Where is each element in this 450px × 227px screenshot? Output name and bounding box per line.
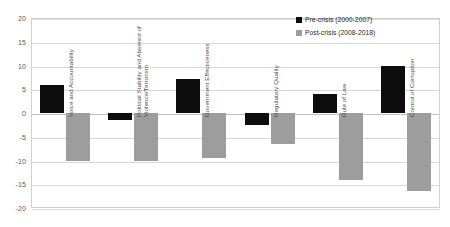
bar-post-crisis [202, 113, 226, 158]
y-axis-tick-label: 20 [18, 15, 26, 22]
y-axis-tick-label: 0 [22, 110, 26, 117]
bar-group: Control of Corruption [372, 18, 440, 208]
bar-pre-crisis [40, 85, 64, 114]
y-axis: 20151050-5-10-15-20 [0, 18, 29, 208]
bar-pre-crisis [381, 66, 405, 113]
y-axis-tick-label: -5 [20, 133, 26, 140]
x-axis-category-label-line: Government Effectiveness [203, 43, 210, 117]
legend-label: Post-crisis (2008-2018) [305, 29, 375, 36]
bar-pre-crisis [108, 113, 132, 120]
bar-pre-crisis [176, 79, 200, 113]
y-axis-tick-label: 5 [22, 86, 26, 93]
chart-legend: Pre-crisis (2000-2007)Post-crisis (2008-… [296, 14, 436, 40]
y-axis-tick-label: -15 [16, 181, 26, 188]
x-axis-category-label: Political Stability and Absence ofViolen… [136, 26, 149, 117]
bar-group: Political Stability and Absence ofViolen… [99, 18, 167, 208]
legend-item[interactable]: Post-crisis (2008-2018) [296, 27, 436, 38]
x-axis-category-label-line: Regulatory Quality [272, 65, 279, 117]
bar-group: Rule of Law [304, 18, 372, 208]
y-axis-tick-label: -10 [16, 157, 26, 164]
legend-item[interactable]: Pre-crisis (2000-2007) [296, 14, 436, 25]
y-axis-tick-label: 15 [18, 38, 26, 45]
bars-layer: Voice and AccountabilityPolitical Stabil… [31, 18, 440, 208]
bar-chart: 20151050-5-10-15-20 Voice and Accountabi… [0, 0, 450, 227]
x-axis-category-label-line: Rule of Law [340, 84, 347, 117]
gridline [32, 209, 439, 210]
bar-post-crisis [134, 113, 158, 161]
x-axis-category-label: Regulatory Quality [272, 65, 279, 117]
bar-post-crisis [66, 113, 90, 161]
bar-group: Regulatory Quality [236, 18, 304, 208]
y-axis-tick-label: 10 [18, 62, 26, 69]
bar-group: Government Effectiveness [167, 18, 235, 208]
legend-swatch-icon [296, 17, 302, 23]
legend-swatch-icon [296, 30, 302, 36]
bar-post-crisis [407, 113, 431, 191]
bar-group: Voice and Accountability [31, 18, 99, 208]
bar-pre-crisis [245, 113, 269, 125]
y-axis-tick-label: -20 [16, 205, 26, 212]
x-axis-category-label: Rule of Law [340, 84, 347, 117]
x-axis-category-label: Control of Corruption [408, 59, 415, 117]
bar-post-crisis [271, 113, 295, 144]
x-axis-category-label-line: Violence/Terrorism [143, 26, 150, 117]
x-axis-category-label-line: Voice and Accountability [67, 49, 74, 117]
x-axis-category-label: Voice and Accountability [67, 49, 74, 117]
bar-post-crisis [339, 113, 363, 180]
legend-label: Pre-crisis (2000-2007) [305, 16, 372, 23]
x-axis-category-label-line: Control of Corruption [408, 59, 415, 117]
x-axis-category-label: Government Effectiveness [203, 43, 210, 117]
bar-pre-crisis [313, 94, 337, 113]
